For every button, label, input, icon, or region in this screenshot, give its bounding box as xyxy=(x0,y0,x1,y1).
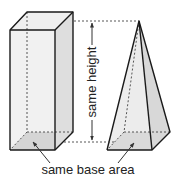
prism-side-face xyxy=(55,12,73,150)
pyramid xyxy=(107,21,170,150)
base-label: same base area xyxy=(41,162,135,177)
diagram-canvas: same height same base area xyxy=(0,0,181,179)
prism xyxy=(10,12,73,150)
height-label: same height xyxy=(84,46,99,117)
